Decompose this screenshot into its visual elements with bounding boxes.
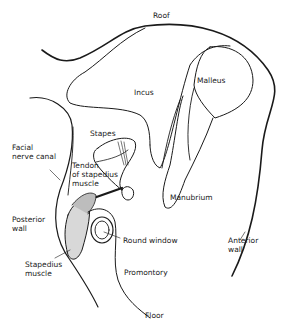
ear-diagram: Roof Incus Malleus Stapes Facial nerve c… <box>0 0 290 328</box>
label-anterior-1: Anterior <box>228 236 258 245</box>
diagram-drawing <box>0 0 290 328</box>
label-tendon-1: Tendon <box>72 161 99 170</box>
label-promontory: Promontory <box>124 268 168 277</box>
label-posterior-1: Posterior <box>12 215 45 224</box>
label-roof: Roof <box>153 11 170 20</box>
label-stapedius-2: muscle <box>25 269 52 278</box>
label-stapes: Stapes <box>90 129 116 138</box>
leader-facial <box>50 170 60 180</box>
label-round-window: Round window <box>123 236 178 245</box>
label-tendon-2: of stapedius <box>72 170 118 179</box>
label-facial-2: nerve canal <box>12 152 56 161</box>
incus-outline <box>67 28 150 145</box>
stapes-footplate <box>122 187 134 200</box>
stapes-outline <box>94 138 136 190</box>
label-malleus: Malleus <box>197 76 226 85</box>
label-facial-1: Facial <box>12 143 33 152</box>
manubrium <box>163 96 213 208</box>
label-manubrium: Manubrium <box>170 193 213 202</box>
label-floor: Floor <box>145 311 164 320</box>
label-tendon-3: muscle <box>72 179 99 188</box>
manubrium-inner <box>188 88 194 160</box>
label-stapedius-1: Stapedius <box>25 260 62 269</box>
label-incus: Incus <box>134 88 154 97</box>
promontory-outline <box>88 209 150 318</box>
round-window-inner <box>95 221 109 239</box>
label-anterior-2: wall <box>228 245 243 254</box>
label-posterior-2: wall <box>12 224 27 233</box>
